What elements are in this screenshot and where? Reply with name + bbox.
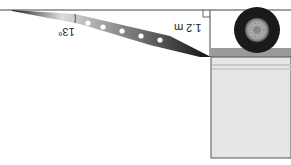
angle-label: 13° <box>58 26 75 38</box>
right-angle-marker <box>203 10 210 17</box>
wheel-center <box>254 27 261 34</box>
ramp-diagram: 13° 1.2 m <box>0 0 291 165</box>
ramp-hole <box>138 33 143 38</box>
height-label: 1.2 m <box>174 22 202 34</box>
truck-body <box>211 57 291 158</box>
truck-stripe <box>212 68 291 70</box>
ramp-hole <box>85 20 90 25</box>
truck-stripe <box>212 64 291 66</box>
diagram-canvas <box>0 0 291 165</box>
ramp-hole <box>119 28 124 33</box>
ramp-hole <box>157 37 162 42</box>
ramp-hole <box>100 24 105 29</box>
